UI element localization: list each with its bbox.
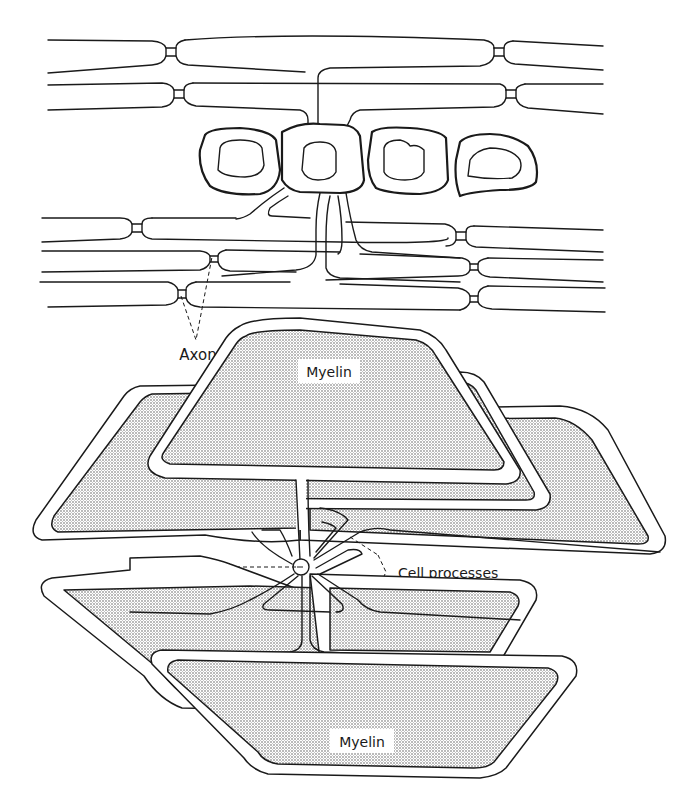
axon-row-3	[42, 218, 603, 252]
myelin-sheet-top: Myelin	[148, 318, 520, 484]
myelin-label-bottom: Myelin	[339, 734, 385, 750]
axon-row-4	[42, 250, 603, 282]
myelinated-axon-cross-section-1	[200, 128, 280, 194]
myelin-label-top: Myelin	[306, 364, 352, 380]
myelinated-axon-cross-section-2	[368, 128, 448, 195]
myelin-sheet-bottom: Myelin	[151, 650, 577, 778]
oligodendrocyte-diagram: Axon Myelin	[0, 0, 679, 801]
axon-label-group: Axon	[179, 257, 216, 364]
bottom-panel-oligodendrocyte: Myelin Nucleus Cell processes	[33, 318, 665, 778]
top-panel-axons: Axon	[40, 36, 605, 364]
oligodendrocyte-cell-body	[282, 124, 364, 193]
myelin-sheet-lower-back-right	[310, 574, 537, 662]
myelinated-axon-cross-section-3	[456, 134, 538, 196]
axon-row-2	[48, 83, 603, 128]
axon-row-1	[48, 36, 603, 125]
axon-row-5	[40, 282, 605, 312]
